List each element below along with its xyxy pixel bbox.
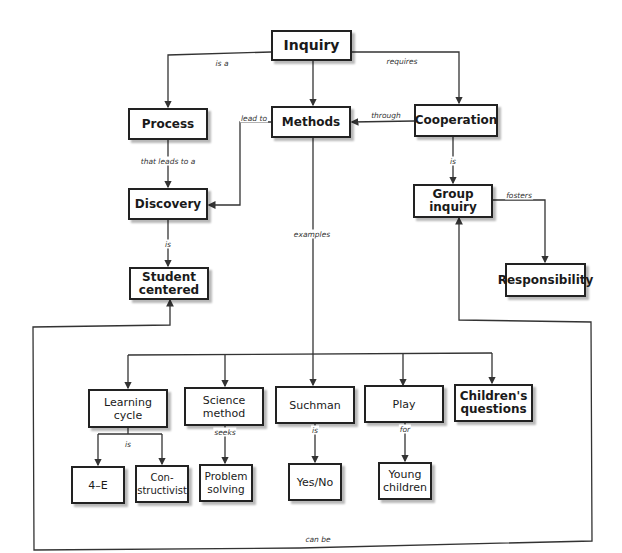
node-play: Play	[364, 385, 444, 423]
edge-examples-bar	[128, 353, 492, 355]
node-group-inquiry-text: Group inquiry	[429, 188, 477, 214]
node-young-children: Young children	[378, 462, 432, 500]
node-problem-solving: Problem solving	[199, 464, 253, 502]
node-young-children-text: Young children	[383, 468, 427, 494]
node-constructivist-text: Con- structivist	[137, 471, 187, 497]
label-learning-cycle-is: is	[124, 440, 132, 449]
node-childrens-questions-text: Children's questions	[460, 390, 528, 416]
concept-map: Inquiry Process Methods Cooperation Disc…	[0, 0, 622, 553]
label-requires: requires	[386, 57, 419, 66]
node-problem-solving-text: Problem solving	[205, 470, 248, 496]
node-methods: Methods	[271, 106, 351, 138]
node-discovery-text: Discovery	[135, 198, 201, 211]
node-methods-text: Methods	[282, 116, 340, 129]
node-responsibility-text: Responsibility	[498, 274, 594, 287]
label-can-be: can be	[304, 535, 331, 544]
node-process-text: Process	[142, 118, 195, 131]
node-process: Process	[128, 108, 208, 140]
node-yes-no-text: Yes/No	[297, 476, 333, 489]
node-learning-cycle: Learning cycle	[88, 389, 168, 428]
label-cooperation-is: is	[449, 157, 457, 166]
node-group-inquiry: Group inquiry	[413, 184, 493, 218]
node-inquiry: Inquiry	[271, 30, 352, 61]
edge-group-responsibility	[492, 200, 545, 262]
node-4e: 4–E	[71, 466, 125, 504]
node-discovery: Discovery	[128, 188, 208, 220]
node-cooperation-text: Cooperation	[415, 114, 498, 127]
label-discovery-is: is	[164, 240, 172, 249]
label-seeks: seeks	[213, 428, 236, 437]
node-science-method-text: Science method	[203, 394, 246, 420]
node-suchman-text: Suchman	[289, 399, 340, 412]
node-cooperation: Cooperation	[414, 104, 498, 137]
edge-cooperation-methods	[352, 121, 414, 122]
node-student-centered-text: Student centered	[139, 271, 199, 297]
label-lead-to: lead to	[240, 114, 268, 123]
label-fosters: fosters	[505, 191, 533, 200]
node-childrens-questions: Children's questions	[454, 384, 533, 422]
label-examples: examples	[293, 230, 331, 239]
label-through: through	[370, 111, 402, 120]
node-inquiry-text: Inquiry	[284, 39, 340, 52]
node-play-text: Play	[393, 398, 416, 411]
node-learning-cycle-text: Learning cycle	[104, 396, 152, 422]
label-suchman-is: is	[311, 426, 319, 435]
label-for: for	[399, 425, 411, 434]
node-science-method: Science method	[184, 387, 264, 426]
node-responsibility: Responsibility	[505, 263, 586, 297]
edge-methods-discovery	[209, 122, 271, 205]
label-is-a: is a	[215, 59, 230, 68]
label-that-leads-to-a: that leads to a	[140, 157, 196, 166]
node-suchman: Suchman	[275, 386, 355, 424]
node-yes-no: Yes/No	[288, 463, 342, 501]
node-constructivist: Con- structivist	[135, 465, 189, 503]
node-4e-text: 4–E	[88, 479, 107, 492]
node-student-centered: Student centered	[129, 267, 209, 300]
